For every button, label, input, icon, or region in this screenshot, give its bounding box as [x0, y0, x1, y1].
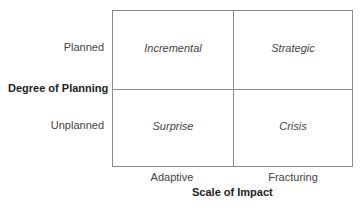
- cell-crisis: Crisis: [233, 120, 353, 132]
- quadrant-grid: Incremental Strategic Surprise Crisis: [112, 10, 353, 167]
- y-axis-title: Degree of Planning: [8, 82, 108, 94]
- row-label-unplanned: Unplanned: [0, 119, 104, 131]
- col-label-fracturing: Fracturing: [233, 171, 353, 183]
- cell-surprise: Surprise: [113, 120, 233, 132]
- row-label-planned: Planned: [0, 41, 104, 53]
- horizontal-divider: [113, 89, 352, 90]
- x-axis-title: Scale of Impact: [192, 186, 273, 198]
- col-label-adaptive: Adaptive: [112, 171, 232, 183]
- cell-incremental: Incremental: [113, 42, 233, 54]
- cell-strategic: Strategic: [233, 42, 353, 54]
